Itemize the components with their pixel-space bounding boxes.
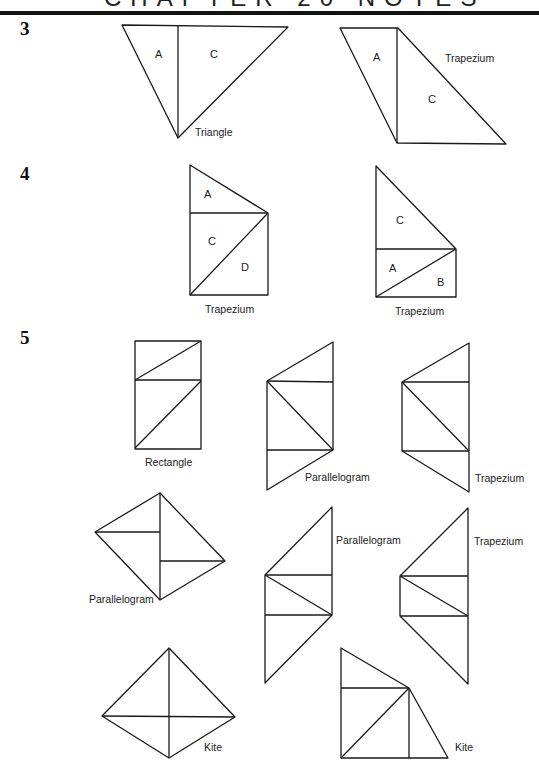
figures-canvas [0,0,539,775]
q3-fig2-caption: Trapezium [445,52,494,64]
q3-fig1-caption: Triangle [195,126,233,138]
q4-fig2-piece-b: B [437,276,444,288]
q5-kite-1-caption: Kite [204,741,222,753]
q4-fig2-piece-a: A [389,262,396,274]
q5-rectangle-caption: Rectangle [145,456,192,468]
q4-trapezium-left-figure [190,165,268,295]
q5-kite-2-figure [341,648,448,758]
q5-trapezium-2-caption: Trapezium [474,535,523,547]
q4-fig2-caption: Trapezium [395,305,444,317]
q3-fig2-piece-c: C [428,93,436,105]
q3-trapezium-figure [340,28,506,144]
q4-fig2-piece-c: C [396,214,404,226]
q3-triangle-figure [122,25,288,138]
q5-trapezium-1-caption: Trapezium [475,472,524,484]
q4-fig1-piece-d: D [241,261,249,273]
q5-parallelogram-3-caption: Parallelogram [336,534,401,546]
q3-fig1-piece-c: C [210,48,218,60]
q5-parallelogram-2-figure [95,493,225,600]
q5-rectangle-figure [135,341,201,449]
q5-kite-2-caption: Kite [455,741,473,753]
q5-parallelogram-3-figure [265,507,332,683]
q4-fig1-piece-a: A [204,188,211,200]
q5-trapezium-1-figure [402,343,469,492]
q5-trapezium-2-figure [400,508,468,684]
q4-fig1-caption: Trapezium [205,303,254,315]
q3-fig2-piece-a: A [373,51,380,63]
q5-parallelogram-2-caption: Parallelogram [89,593,154,605]
q3-fig1-piece-a: A [155,48,162,60]
q5-parallelogram-1-figure [267,342,333,490]
q4-fig1-piece-c: C [208,235,216,247]
q5-parallelogram-1-caption: Parallelogram [305,471,370,483]
